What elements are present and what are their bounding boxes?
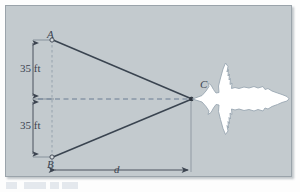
figure-container: A B C d 35 ft 35 ft [0, 0, 300, 192]
point-markers [50, 38, 194, 159]
sight-line-a-to-c [53, 40, 192, 99]
label-upper-dimension: 35 ft [20, 63, 40, 74]
figure-panel: A B C d 35 ft 35 ft [5, 5, 292, 177]
airplane-body-path [193, 63, 290, 135]
airplane-silhouette [193, 63, 290, 135]
label-point-a: A [47, 29, 54, 40]
label-point-b: B [47, 159, 54, 170]
label-distance-d: d [114, 164, 120, 175]
construction-lines [33, 40, 191, 172]
label-point-c: C [200, 79, 207, 90]
label-lower-dimension: 35 ft [20, 120, 40, 131]
caption-remnant [6, 182, 96, 189]
sight-line-b-to-c [53, 99, 192, 157]
